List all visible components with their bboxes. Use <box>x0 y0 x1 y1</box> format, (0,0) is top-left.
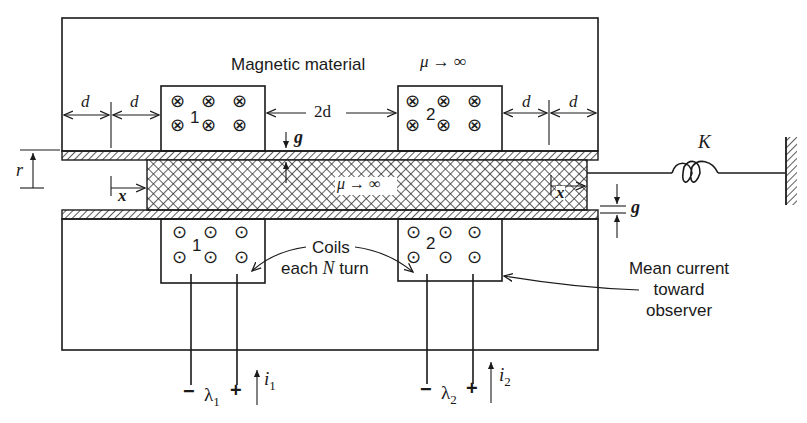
coil-1-current: i1 <box>264 368 276 394</box>
coils-annotation-n-var: N <box>323 258 335 278</box>
dim-d-right-1: d <box>522 92 531 112</box>
coils-annotation-line1: Coils <box>312 238 350 258</box>
coil-1-lambda: λ1 <box>204 384 220 410</box>
coil-2-minus: − <box>420 378 432 401</box>
dim-2d: 2d <box>314 102 331 122</box>
title-magnetic-material: Magnetic material <box>231 55 365 75</box>
dim-d-left-2: d <box>130 92 139 112</box>
coil-1-lambda-sub: 1 <box>213 394 220 409</box>
coil-2-plus: + <box>466 377 478 400</box>
coil-2-lambda-base: λ <box>441 382 450 403</box>
coils-annotation-suffix: turn <box>335 259 369 278</box>
coil-2-current: i2 <box>499 364 511 390</box>
dim-r: r <box>16 160 23 181</box>
dim-x-right: x <box>556 186 565 200</box>
coil-1-current-sub: 1 <box>269 378 276 393</box>
dim-g-top: g <box>294 127 303 148</box>
mean-current-line2: toward <box>614 279 744 300</box>
dim-d-right-2: d <box>569 92 578 112</box>
coil-1-plus: + <box>230 379 242 402</box>
mean-current-line3: observer <box>614 300 744 321</box>
coil-1-minus: − <box>183 380 195 403</box>
coil-2-lambda: λ2 <box>441 382 457 408</box>
core-permeability-label: μ → ∞ <box>420 52 466 72</box>
plunger-permeability-label: μ → ∞ <box>337 175 380 193</box>
coil-2-current-sub: 2 <box>504 374 511 389</box>
spring-k-label: K <box>698 131 711 153</box>
dim-d-left-1: d <box>81 92 90 112</box>
mean-current-annotation: Mean current toward observer <box>614 258 744 321</box>
dim-g-right: g <box>631 197 640 218</box>
coil-1-lambda-base: λ <box>204 384 213 405</box>
coil-2-lambda-sub: 2 <box>450 392 457 407</box>
coils-annotation-line2: each N turn <box>281 258 369 279</box>
dim-x-left: x <box>118 186 127 206</box>
label-layer: Magnetic material μ → ∞ μ → ∞ d d 2d d d… <box>0 0 807 423</box>
mean-current-line1: Mean current <box>614 258 744 279</box>
coils-annotation-prefix: each <box>281 259 323 278</box>
